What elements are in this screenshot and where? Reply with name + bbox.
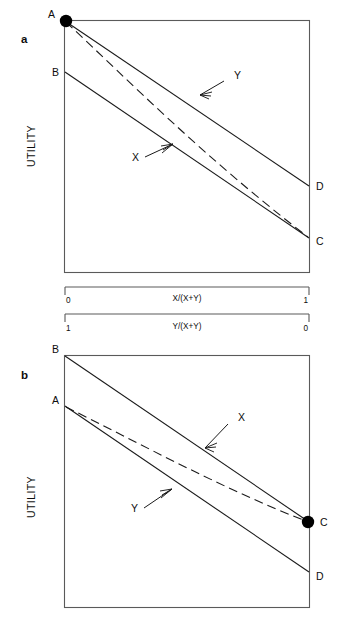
panel-b-plot-frame xyxy=(65,356,310,608)
panel-b-label-d: D xyxy=(316,570,324,582)
panel-b-dashed-combined xyxy=(66,407,306,521)
panel-a-line-a-to-d xyxy=(65,21,309,186)
panel-a-dashed-combined xyxy=(66,22,308,237)
panel-b-tag: b xyxy=(21,369,28,381)
panel-a-y-axis-title: UTILITY xyxy=(25,125,37,167)
panel-a-plot-frame xyxy=(65,21,310,273)
panel-a-label-d: D xyxy=(316,180,324,192)
axis-bar-2-right-tick: 0 xyxy=(303,324,308,333)
panel-b-arrow-x-head xyxy=(205,443,217,452)
panel-a-label-series-y: Y xyxy=(234,69,241,81)
figure-container: A B D C Y X a UTILITY 0 X/(X+Y) 1 1 Y/(X… xyxy=(0,0,352,634)
panel-a: A B D C Y X a UTILITY xyxy=(21,8,324,273)
panel-b-arrow-y-head xyxy=(160,489,172,498)
panel-b-arrow-x-shaft xyxy=(205,424,228,448)
axis-bar-2-bracket xyxy=(65,314,309,322)
panel-a-line-b-to-c xyxy=(65,72,309,238)
panel-b-line-a-to-d xyxy=(65,406,309,572)
panel-a-label-series-x: X xyxy=(132,151,139,163)
panel-a-label-a: A xyxy=(48,8,55,20)
panel-b-label-series-x: X xyxy=(238,411,245,423)
panel-b-label-a: A xyxy=(52,394,59,406)
panel-a-arrow-x-shaft xyxy=(145,144,173,157)
panel-b-point-c-marker xyxy=(302,516,314,528)
panel-b-label-c: C xyxy=(320,516,328,528)
panel-b-label-series-y: Y xyxy=(131,502,138,514)
panel-a-tag: a xyxy=(21,33,28,45)
panel-b-label-b: B xyxy=(52,343,59,355)
panel-a-label-c: C xyxy=(316,235,324,247)
axis-bar-1-left-tick: 0 xyxy=(66,296,71,305)
panel-b-line-b-to-c xyxy=(65,356,309,522)
panel-a-arrow-y-head xyxy=(200,92,212,99)
axis-bar-1-right-tick: 1 xyxy=(303,296,308,305)
axis-bar-2-title: Y/(X+Y) xyxy=(173,322,202,331)
axis-bar-2-left-tick: 1 xyxy=(66,324,71,333)
panel-b-y-axis-title: UTILITY xyxy=(25,476,37,518)
utility-figure-svg: A B D C Y X a UTILITY 0 X/(X+Y) 1 1 Y/(X… xyxy=(0,0,352,634)
axis-bar-y-over-xplusy: 1 Y/(X+Y) 0 xyxy=(65,314,309,333)
axis-bar-x-over-xplusy: 0 X/(X+Y) 1 xyxy=(65,287,309,305)
panel-a-point-a-marker xyxy=(60,15,72,27)
caption-sliver xyxy=(0,628,352,634)
axis-bar-1-title: X/(X+Y) xyxy=(173,294,202,303)
panel-a-arrow-y-shaft xyxy=(200,81,224,95)
panel-b: B A C D X Y b UTILITY xyxy=(21,343,328,608)
panel-a-label-b: B xyxy=(52,66,59,78)
